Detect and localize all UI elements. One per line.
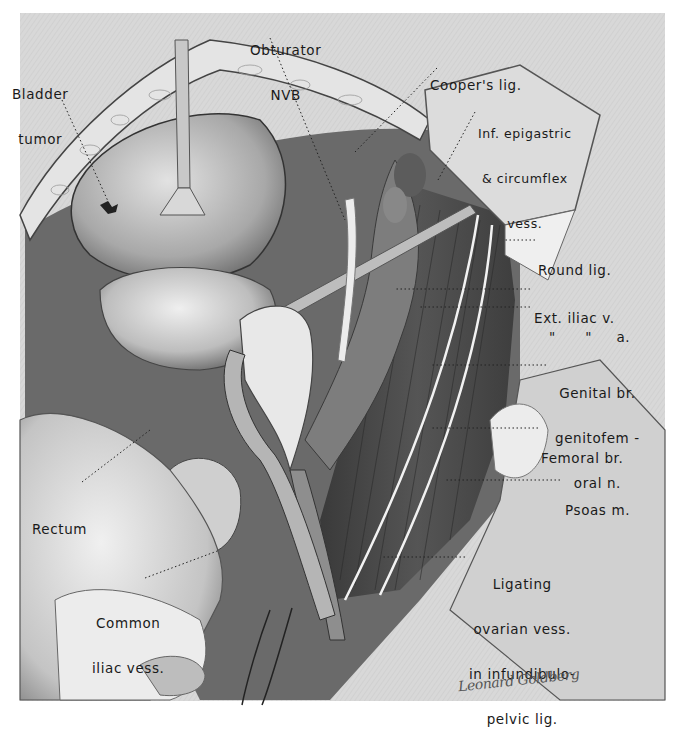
label-line: Bladder <box>12 87 68 102</box>
label-line: Cooper's lig. <box>430 78 522 93</box>
label-line: & circumflex <box>478 171 572 186</box>
label-line: ovarian vess. <box>469 622 575 637</box>
label-line: NVB <box>250 88 321 103</box>
label-bladder-tumor: Bladder tumor <box>12 57 68 162</box>
label-line: Femoral br. <box>541 451 623 466</box>
label-line: Inf. epigastric <box>478 126 572 141</box>
label-inf-epigastric: Inf. epigastric & circumflex vess. <box>478 96 572 246</box>
label-line: Round lig. <box>538 263 611 278</box>
label-line: Common <box>92 616 165 631</box>
label-line: pelvic lig. <box>469 712 575 727</box>
label-line: tumor <box>12 132 68 147</box>
label-rectum: Rectum <box>32 492 87 552</box>
label-ligating: Ligating ovarian vess. in infundibulo- p… <box>469 547 575 731</box>
label-common-iliac: Common iliac vess. <box>92 586 165 691</box>
label-line: vess. <box>478 216 572 231</box>
label-line: iliac vess. <box>92 661 165 676</box>
label-line: Genital br. <box>555 386 640 401</box>
label-psoas-m: Psoas m. <box>565 473 630 533</box>
label-line: Ligating <box>469 577 575 592</box>
label-femoral-br: Femoral br. <box>541 421 623 481</box>
label-line: Rectum <box>32 522 87 537</box>
label-line: " " a. <box>549 330 630 345</box>
label-line: Psoas m. <box>565 503 630 518</box>
label-ext-iliac-a: " " a. <box>549 300 630 360</box>
bladder-suture <box>175 40 190 188</box>
label-line: Obturator <box>250 43 321 58</box>
label-obturator-nvb: Obturator NVB <box>250 13 321 118</box>
